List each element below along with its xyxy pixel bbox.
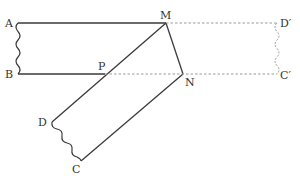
label-c: C — [72, 163, 80, 176]
label-p: P — [98, 60, 106, 73]
wavy-edge-ab — [16, 23, 20, 74]
label-d: D — [38, 116, 47, 129]
label-n: N — [185, 76, 195, 89]
segment-md — [52, 23, 166, 122]
label-m: M — [160, 9, 171, 22]
wavy-edge-dc — [52, 122, 81, 161]
wavy-edge-d-prime-c-prime-dashed — [275, 23, 279, 74]
label-d-prime: D′ — [280, 17, 292, 30]
segment-nc — [81, 74, 183, 161]
segment-mn — [166, 23, 183, 74]
folded-strip-diagram: A B M P N D C D′ C′ — [0, 0, 300, 180]
label-a: A — [4, 17, 14, 30]
label-c-prime: C′ — [280, 69, 291, 82]
label-b: B — [5, 68, 13, 81]
